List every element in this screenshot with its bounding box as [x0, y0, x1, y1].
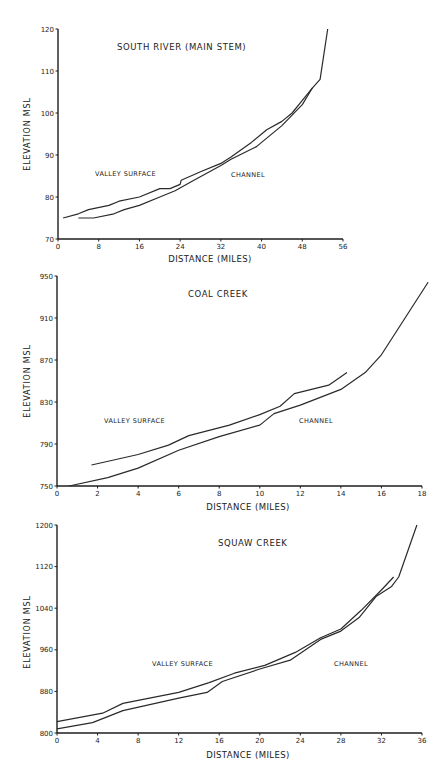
channel-label: CHANNEL	[299, 417, 333, 425]
y-tick-label: 110	[41, 68, 54, 76]
y-tick-label: 70	[45, 236, 54, 244]
valley-surface-label: VALLEY SURFACE	[95, 170, 156, 178]
x-tick-label: 14	[336, 490, 345, 498]
x-tick-label: 8	[217, 490, 221, 498]
valley-surface-label: VALLEY SURFACE	[152, 660, 213, 668]
x-tick-label: 28	[336, 737, 345, 745]
x-tick-label: 8	[96, 243, 100, 251]
y-tick-label: 1120	[35, 563, 53, 571]
x-tick-label: 16	[215, 737, 224, 745]
x-tick-label: 8	[136, 737, 140, 745]
y-tick-label: 80	[45, 194, 54, 202]
channel-line	[69, 282, 428, 486]
x-tick-label: 6	[176, 490, 181, 498]
x-tick-label: 18	[418, 490, 427, 498]
y-tick-label: 100	[41, 110, 54, 118]
x-tick-label: 40	[257, 243, 266, 251]
y-tick-label: 830	[40, 399, 53, 407]
chart-title: SQUAW CREEK	[218, 538, 288, 548]
x-tick-label: 12	[296, 490, 305, 498]
y-axis-label: ELEVATION MSL	[23, 344, 32, 417]
x-tick-label: 12	[174, 737, 183, 745]
valley-surface-line	[57, 577, 394, 722]
x-tick-label: 4	[136, 490, 141, 498]
chart-coal-creek: COAL CREEK ELEVATION MSL DISTANCE (MILES…	[23, 273, 428, 513]
channel-label: CHANNEL	[231, 171, 265, 179]
chart-title: SOUTH RIVER (MAIN STEM)	[117, 42, 246, 52]
y-tick-label: 910	[40, 315, 53, 323]
chart-south-river: SOUTH RIVER (MAIN STEM) ELEVATION MSL DI…	[23, 26, 348, 265]
y-tick-label: 800	[40, 730, 53, 738]
x-tick-label: 16	[135, 243, 144, 251]
y-tick-label: 1040	[35, 605, 53, 613]
x-tick-label: 24	[296, 737, 305, 745]
figure-canvas: SOUTH RIVER (MAIN STEM) ELEVATION MSL DI…	[0, 0, 447, 776]
axes: 70809010011012008162432404856	[41, 26, 348, 252]
y-tick-label: 750	[40, 483, 53, 491]
x-tick-label: 20	[255, 737, 264, 745]
x-tick-label: 24	[176, 243, 185, 251]
channel-label: CHANNEL	[334, 660, 368, 668]
y-tick-label: 950	[40, 273, 53, 281]
valley-surface-label: VALLEY SURFACE	[104, 417, 165, 425]
x-tick-label: 2	[95, 490, 99, 498]
x-tick-label: 10	[255, 490, 264, 498]
y-tick-label: 880	[40, 688, 53, 696]
x-tick-label: 32	[216, 243, 225, 251]
x-tick-label: 0	[55, 737, 59, 745]
y-tick-label: 90	[45, 152, 54, 160]
x-axis-label: DISTANCE (MILES)	[206, 502, 290, 512]
series-lines	[63, 29, 328, 218]
y-axis-label: ELEVATION MSL	[23, 595, 32, 668]
y-tick-label: 870	[40, 357, 53, 365]
x-tick-label: 32	[377, 737, 386, 745]
y-tick-label: 120	[41, 26, 54, 34]
y-axis-label: ELEVATION MSL	[23, 97, 32, 170]
x-axis-label: DISTANCE (MILES)	[206, 750, 290, 760]
axes: 80088096010401120120004812162024283236	[35, 522, 427, 746]
valley-surface-line	[63, 88, 312, 218]
x-tick-label: 0	[56, 243, 60, 251]
x-tick-label: 0	[55, 490, 59, 498]
channel-line	[57, 525, 417, 729]
series-lines	[69, 282, 428, 486]
y-tick-label: 960	[40, 646, 53, 654]
x-tick-label: 16	[377, 490, 386, 498]
series-lines	[57, 525, 417, 729]
x-tick-label: 36	[418, 737, 427, 745]
x-tick-label: 48	[298, 243, 307, 251]
y-tick-label: 790	[40, 441, 53, 449]
y-tick-label: 1200	[35, 522, 53, 530]
chart-squaw-creek: SQUAW CREEK ELEVATION MSL DISTANCE (MILE…	[23, 522, 427, 761]
x-axis-label: DISTANCE (MILES)	[168, 254, 252, 264]
x-tick-label: 56	[339, 243, 348, 251]
channel-line	[78, 29, 327, 218]
x-tick-label: 4	[95, 737, 100, 745]
chart-title: COAL CREEK	[188, 289, 248, 299]
